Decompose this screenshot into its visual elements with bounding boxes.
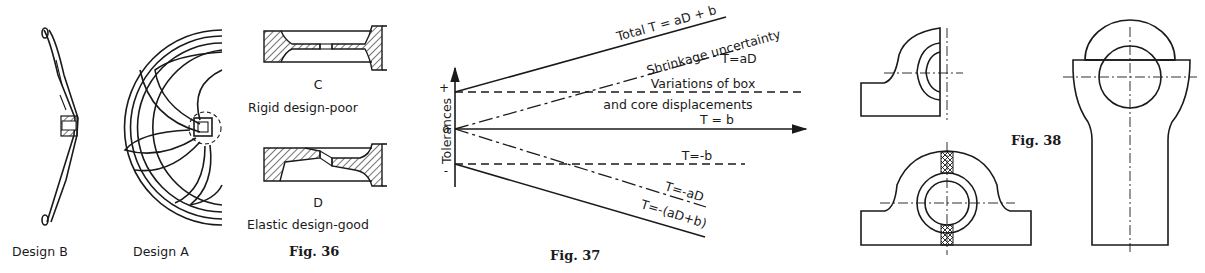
- label-variations-2: and core displacements: [603, 97, 752, 112]
- section-d-drawing: [264, 144, 387, 186]
- figure-canvas: Design B Design A: [0, 0, 1205, 273]
- design-b-drawing: [42, 28, 78, 225]
- line-neg-ad: [455, 129, 706, 207]
- figure-37-caption: Fig. 37: [550, 248, 600, 263]
- label-neg-b: T=-b: [681, 148, 713, 163]
- line-neg-total: [455, 164, 705, 237]
- section-d-caption: Elastic design-good: [247, 217, 369, 232]
- design-a-label: Design A: [133, 244, 189, 259]
- design-b-label: Design B: [12, 244, 68, 259]
- figure-37-chart: Tolerances + o - Total T = aD + b Shrink…: [439, 2, 806, 263]
- label-t-b: T = b: [699, 112, 734, 127]
- figure-36-caption: Fig. 36: [289, 244, 339, 259]
- section-c-drawing: [264, 26, 387, 70]
- tick-plus: +: [439, 81, 449, 95]
- tick-minus: -: [444, 164, 448, 178]
- label-variations-1: Variations of box: [651, 76, 756, 91]
- section-c-letter: C: [314, 77, 323, 92]
- label-neg-ad: T=-aD: [662, 178, 706, 204]
- section-d-letter: D: [313, 195, 323, 210]
- figure-38-caption: Fig. 38: [1011, 133, 1061, 148]
- connecting-rod-drawing: [1063, 20, 1197, 252]
- label-shrinkage-eq: T=aD: [720, 51, 756, 66]
- full-bearing-drawing: [861, 142, 1031, 255]
- design-a-drawing: [125, 30, 222, 225]
- half-bearing-drawing: [861, 28, 963, 120]
- tick-zero: o: [442, 122, 449, 136]
- section-c-caption: Rigid design-poor: [248, 100, 359, 115]
- figure-36: Design B Design A: [12, 26, 387, 259]
- figure-38: Fig. 38: [861, 20, 1197, 255]
